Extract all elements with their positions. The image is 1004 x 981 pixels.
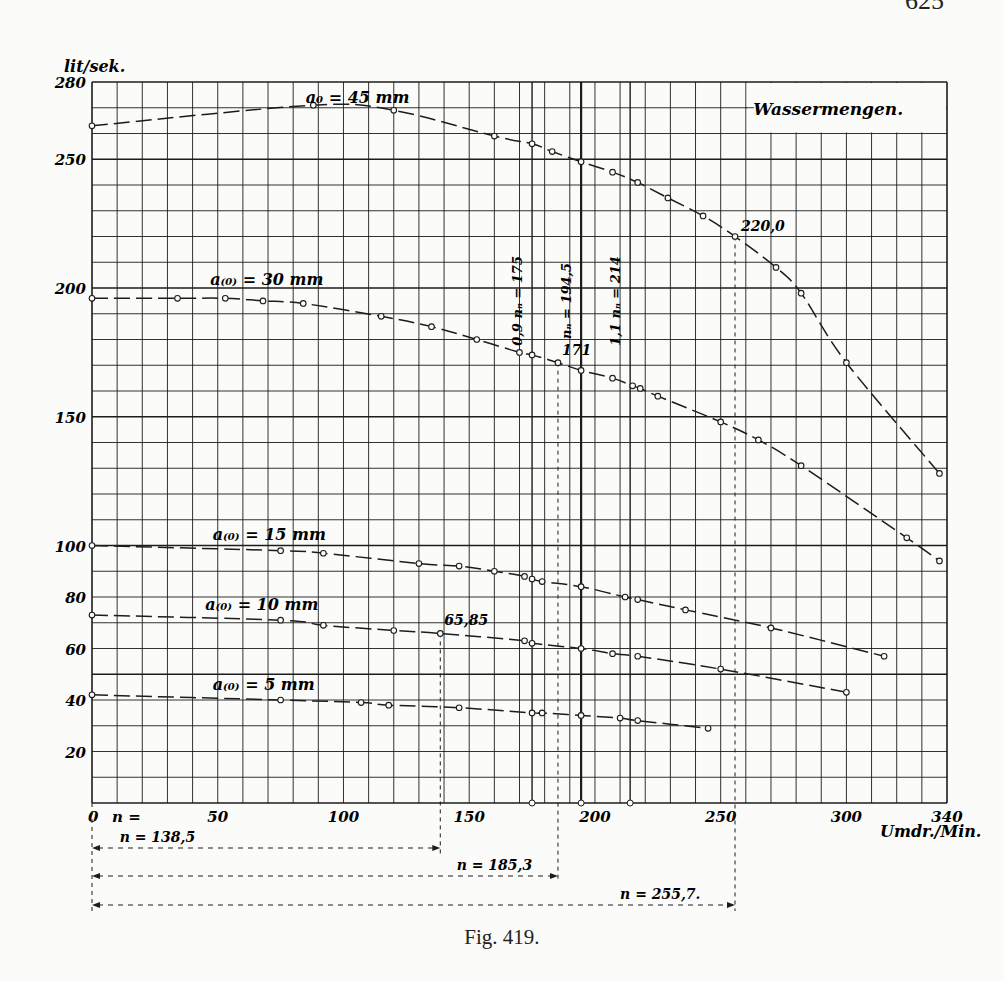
data-point <box>222 296 228 302</box>
arrow-left-icon <box>92 845 100 851</box>
data-point <box>89 123 95 129</box>
data-point <box>89 612 95 618</box>
data-point <box>539 579 545 585</box>
data-point <box>386 702 392 708</box>
data-point <box>517 350 523 356</box>
data-point <box>549 149 555 155</box>
marker-point <box>578 800 584 806</box>
data-point <box>529 352 535 358</box>
data-point <box>705 726 711 732</box>
x-tick-prefix: n = <box>112 808 141 826</box>
data-point <box>700 213 706 219</box>
data-point <box>798 463 804 469</box>
data-point <box>321 550 327 556</box>
y-tick-label: 280 <box>54 74 87 92</box>
series-label: a₍₀₎ = 10 mm <box>205 595 318 614</box>
data-point <box>635 653 641 659</box>
data-point <box>635 180 641 186</box>
y-tick-label: 80 <box>65 589 86 607</box>
data-point <box>768 625 774 631</box>
marker-label: 1,1 nₙ = 214 <box>608 256 623 346</box>
data-point <box>300 301 306 307</box>
y-tick-label: 150 <box>55 409 87 427</box>
data-point <box>429 324 435 330</box>
data-point <box>391 628 397 634</box>
data-point <box>637 386 643 392</box>
x-tick-label: 250 <box>704 808 737 826</box>
marker-point <box>627 800 633 806</box>
data-point <box>278 617 284 623</box>
data-point <box>630 383 636 389</box>
data-point <box>321 623 327 629</box>
data-point <box>881 653 887 659</box>
data-point <box>655 393 661 399</box>
y-tick-label: 60 <box>65 641 86 659</box>
chart-title: Wassermengen. <box>753 99 903 119</box>
x-tick-label: 0 <box>88 808 99 826</box>
data-point <box>844 360 850 366</box>
x-tick-label: 100 <box>328 808 360 826</box>
data-point <box>622 594 628 600</box>
data-point <box>578 368 584 374</box>
data-point <box>904 535 910 541</box>
series-label: a₍₀₎ = 30 mm <box>210 270 323 289</box>
x-tick-label: 200 <box>578 808 611 826</box>
data-point <box>683 607 689 613</box>
series-label: a₍₀₎ = 15 mm <box>213 525 326 544</box>
data-point <box>635 597 641 603</box>
data-point <box>635 718 641 724</box>
data-point <box>89 692 95 698</box>
data-point <box>89 296 95 302</box>
data-point <box>610 651 616 657</box>
data-point <box>529 641 535 647</box>
dimension-label: n = 185,3 <box>457 857 533 873</box>
y-tick-label: 40 <box>65 692 86 710</box>
data-point <box>756 437 762 443</box>
data-point <box>456 563 462 569</box>
data-point <box>358 700 364 706</box>
data-point <box>175 296 181 302</box>
data-point <box>492 568 498 574</box>
data-point <box>278 697 284 703</box>
data-point <box>665 195 671 201</box>
data-point <box>617 715 623 721</box>
data-point <box>492 133 498 139</box>
data-point <box>89 543 95 549</box>
marker-label: nₙ = 194,5 <box>559 263 574 339</box>
arrow-right-icon <box>550 873 558 879</box>
marker-label: 0,9 nₙ = 175 <box>510 256 525 346</box>
data-point <box>844 689 850 695</box>
data-point <box>529 576 535 582</box>
data-point <box>378 314 384 320</box>
dimension-label: n = 255,7. <box>620 886 700 902</box>
y-tick-label: 250 <box>54 151 87 169</box>
x-tick-label: 300 <box>831 808 863 826</box>
data-point <box>260 298 266 304</box>
data-point <box>610 375 616 381</box>
data-point <box>529 710 535 716</box>
point-annotation: 220,0 <box>740 218 785 234</box>
data-point <box>456 705 462 711</box>
data-point <box>718 666 724 672</box>
data-point <box>416 561 422 567</box>
arrow-left-icon <box>92 873 100 879</box>
data-point <box>773 265 779 271</box>
data-point <box>437 631 443 637</box>
water-flow-chart: Wassermengen.lit/sek.Umdr./Min.204060801… <box>0 0 1004 981</box>
x-tick-label: 340 <box>931 808 963 826</box>
data-point <box>278 548 284 554</box>
data-point <box>937 558 943 564</box>
data-point <box>718 419 724 425</box>
series-label: a₀ = 45 mm <box>306 88 410 107</box>
data-point <box>937 471 943 477</box>
x-tick-label: 50 <box>207 808 228 826</box>
figure-caption: Fig. 419. <box>0 925 1004 950</box>
data-point <box>529 141 535 147</box>
arrow-left-icon <box>92 902 100 908</box>
marker-point <box>529 800 535 806</box>
data-point <box>610 169 616 175</box>
data-point <box>578 584 584 590</box>
data-point <box>578 713 584 719</box>
data-point <box>522 574 528 580</box>
dimension-label: n = 138,5 <box>120 829 196 845</box>
